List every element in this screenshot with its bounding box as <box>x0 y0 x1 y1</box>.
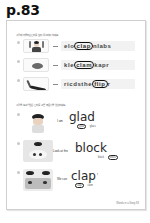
exercise1-instruction: 그림에 어울리는 단어를 찾아 동그라미 하세요. <box>16 33 58 37</box>
answer-word: clap <box>71 170 96 182</box>
choice-group: black block <box>97 155 120 160</box>
choice-group: clap clam <box>75 183 96 188</box>
sentence-lead: I am <box>57 119 63 123</box>
letters-suffix: nlabs <box>93 43 112 49</box>
letters-prefix: elo <box>64 43 74 49</box>
choice-option[interactable]: clap <box>75 183 84 188</box>
block-play-image <box>23 140 53 162</box>
exercise1-item-3: ricdstheflipr <box>17 77 137 91</box>
circled-answer[interactable]: clap <box>74 42 92 50</box>
choice-group: glad glass <box>77 124 99 129</box>
choice-option[interactable]: glad <box>77 124 86 129</box>
sentence-lead: We can <box>57 177 67 181</box>
item-number-bullet <box>17 171 20 174</box>
choice-option[interactable]: block <box>108 155 118 160</box>
letter-puzzle: eloclapnlabs <box>61 41 135 51</box>
item-number-bullet <box>17 79 20 82</box>
letters-prefix: kle <box>64 62 74 68</box>
page-footer: Words in a Story 83 <box>116 202 139 205</box>
letters-prefix: ricdsthe <box>64 81 92 87</box>
item-number-bullet <box>17 113 20 116</box>
connector-dash <box>53 65 58 66</box>
sentence-end: ! <box>97 172 98 177</box>
item-number-bullet <box>17 60 20 63</box>
exercise1-item-2: kleclamkapr <box>17 58 137 72</box>
connector-dash <box>53 84 58 85</box>
answer-word: block <box>75 142 107 154</box>
letters-suffix: r <box>108 81 111 87</box>
sentence-lead: Look at the <box>53 149 68 153</box>
item-number-bullet <box>17 41 20 44</box>
letter-puzzle: ricdstheflipr <box>61 79 135 89</box>
glad-kid-image <box>23 111 53 133</box>
item-number-bullet <box>17 142 20 145</box>
exercise2-instruction: 그림을 보고 알맞은 단어를 고른 후 문장을 완성하세요. <box>16 103 66 107</box>
circled-answer[interactable]: flip <box>92 80 107 88</box>
clapping-person-image <box>23 39 49 53</box>
choice-option[interactable]: glass <box>89 125 97 128</box>
choice-option[interactable]: clam <box>87 184 94 187</box>
circled-answer[interactable]: clam <box>74 61 94 69</box>
page-number-label: p.83 <box>6 2 40 18</box>
answer-word: glad <box>69 111 95 123</box>
exercise2-item-3: We can clap ! clap clam <box>17 169 137 193</box>
clapping-kids-image <box>23 169 53 191</box>
clam-image <box>23 58 49 72</box>
exercise2-item-1: I am glad glad glass <box>17 111 137 135</box>
connector-dash <box>53 46 58 47</box>
flip-image <box>23 77 49 91</box>
letters-suffix: kapr <box>94 62 109 68</box>
workbook-page: 그림에 어울리는 단어를 찾아 동그라미 하세요. eloclapnlabs k… <box>6 20 146 210</box>
letter-puzzle: kleclamkapr <box>61 60 135 70</box>
choice-option[interactable]: black <box>97 156 105 159</box>
exercise2-item-2: Look at the block black block <box>17 140 137 164</box>
exercise1-item-1: eloclapnlabs <box>17 39 137 53</box>
